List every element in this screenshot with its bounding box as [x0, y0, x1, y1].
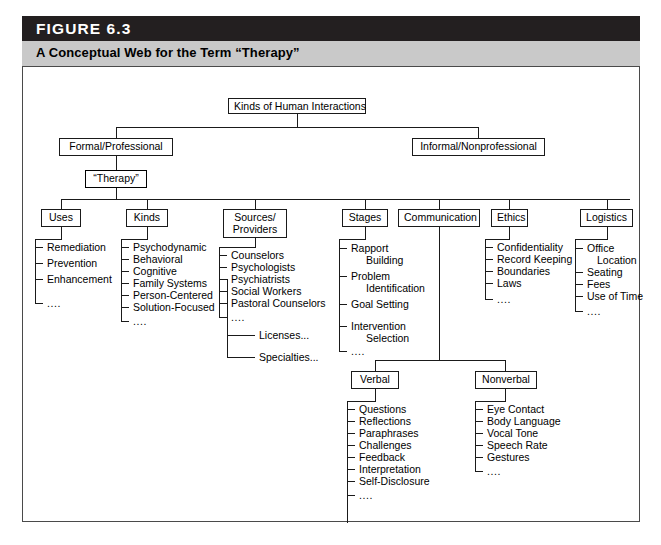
list-item: Gestures: [487, 451, 530, 464]
list-ellipsis-logistics: ....: [587, 306, 601, 316]
list-item: Counselors: [231, 249, 284, 262]
list-item: Challenges: [359, 439, 412, 452]
list-item: Problem: [351, 270, 390, 283]
list-item-cont: Location: [597, 254, 637, 267]
list-item: Social Workers: [231, 285, 301, 298]
list-item: Body Language: [487, 415, 561, 428]
diagram-canvas: Kinds of Human Interactions Formal/Profe…: [22, 66, 640, 522]
node-verbal: Verbal: [351, 371, 399, 389]
list-ellipsis-uses: ....: [47, 298, 61, 308]
list-item: Fees: [587, 278, 610, 291]
list-item: Feedback: [359, 451, 405, 464]
node-nonverbal: Nonverbal: [475, 371, 537, 389]
list-item-cont: Selection: [366, 332, 409, 345]
list-item: Psychologists: [231, 261, 295, 274]
list-item-cont: Identification: [366, 282, 425, 295]
list-item: Speech Rate: [487, 439, 548, 452]
sources-providers-line2: Providers: [229, 224, 281, 236]
list-item: Office: [587, 242, 614, 255]
node-category-sources-providers: Sources/ Providers: [223, 209, 287, 238]
list-ellipsis-kinds: ....: [133, 316, 147, 326]
list-item: Questions: [359, 403, 406, 416]
list-item: Psychiatrists: [231, 273, 290, 286]
list-item-cont: Building: [366, 254, 403, 267]
node-category-ethics: Ethics: [491, 209, 528, 227]
list-item: Record Keeping: [497, 253, 572, 266]
node-informal-nonprofessional: Informal/Nonprofessional: [412, 138, 545, 156]
list-ellipsis-ethics: ....: [497, 294, 511, 304]
list-item: Eye Contact: [487, 403, 544, 416]
node-therapy: “Therapy”: [85, 170, 147, 188]
list-item: Behavioral: [133, 253, 183, 266]
list-item: Reflections: [359, 415, 411, 428]
node-formal-professional: Formal/Professional: [59, 138, 173, 156]
list-item: Paraphrases: [359, 427, 419, 440]
list-item: Rapport: [351, 242, 388, 255]
list-item: Enhancement: [47, 273, 112, 286]
figure-title-label: A Conceptual Web for the Term “Therapy”: [36, 45, 300, 60]
list-item: Person-Centered: [133, 289, 213, 302]
list-ellipsis-sources: ....: [231, 312, 245, 322]
list-item: Prevention: [47, 257, 97, 270]
figure-card: FIGURE 6.3 A Conceptual Web for the Term…: [22, 16, 640, 522]
list-item: Use of Time: [587, 290, 643, 303]
list-item: Vocal Tone: [487, 427, 538, 440]
list-item: Remediation: [47, 241, 106, 254]
list-item: Self-Disclosure: [359, 475, 430, 488]
list-item: Pastoral Counselors: [231, 297, 326, 310]
list-item: Cognitive: [133, 265, 177, 278]
list-item: Solution-Focused: [133, 301, 215, 314]
list-ellipsis-verbal: ....: [359, 490, 373, 500]
list-item: Family Systems: [133, 277, 207, 290]
figure-title-bar: A Conceptual Web for the Term “Therapy”: [22, 41, 640, 66]
node-category-uses: Uses: [41, 209, 81, 227]
list-item: Interpretation: [359, 463, 421, 476]
list-item-licenses: Licenses...: [259, 329, 309, 342]
node-category-communication: Communication: [398, 209, 480, 227]
node-category-logistics: Logistics: [580, 209, 633, 227]
list-item: Psychodynamic: [133, 241, 207, 254]
list-item: Seating: [587, 266, 623, 279]
list-item-specialties: Specialties...: [259, 351, 319, 364]
sources-providers-line1: Sources/: [229, 212, 281, 224]
list-item: Confidentiality: [497, 241, 563, 254]
list-ellipsis-stages: ....: [351, 346, 365, 356]
node-category-kinds: Kinds: [126, 209, 168, 227]
node-category-stages: Stages: [342, 209, 388, 227]
node-root: Kinds of Human Interactions: [228, 98, 366, 114]
list-item: Goal Setting: [351, 298, 409, 311]
figure-number-bar: FIGURE 6.3: [22, 16, 640, 41]
list-item: Boundaries: [497, 265, 550, 278]
figure-number-label: FIGURE 6.3: [36, 20, 131, 38]
list-item: Laws: [497, 277, 522, 290]
list-item: Intervention: [351, 320, 406, 333]
connector-lines: [23, 67, 641, 523]
list-ellipsis-nonverbal: ....: [487, 466, 501, 476]
